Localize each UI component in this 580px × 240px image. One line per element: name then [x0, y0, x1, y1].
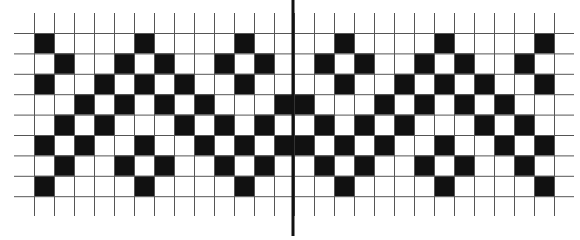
filled-cell — [414, 155, 434, 175]
filled-cell — [114, 94, 134, 114]
filled-cell — [154, 155, 174, 175]
filled-cell — [354, 155, 374, 175]
filled-cell — [34, 33, 54, 53]
filled-cell — [494, 135, 514, 155]
filled-cell — [94, 74, 114, 94]
filled-cell — [514, 155, 534, 175]
filled-cell — [194, 94, 214, 114]
filled-cell — [34, 135, 54, 155]
filled-cell — [374, 94, 394, 114]
filled-cell — [334, 176, 354, 196]
filled-cell — [174, 115, 194, 135]
filled-cell — [434, 176, 454, 196]
filled-cell — [214, 115, 234, 135]
filled-cell — [334, 74, 354, 94]
filled-cell — [94, 115, 114, 135]
filled-cell — [514, 53, 534, 73]
filled-cell — [294, 135, 314, 155]
filled-cell — [54, 53, 74, 73]
filled-cell — [534, 74, 554, 94]
filled-cell — [234, 135, 254, 155]
filled-cell — [434, 33, 454, 53]
filled-cell — [74, 135, 94, 155]
filled-cell — [454, 155, 474, 175]
filled-cell — [374, 135, 394, 155]
filled-cell — [394, 115, 414, 135]
filled-cell — [354, 53, 374, 73]
filled-cell — [254, 53, 274, 73]
filled-cell — [354, 115, 374, 135]
pattern-chart — [0, 0, 580, 240]
filled-cell — [34, 176, 54, 196]
filled-cell — [134, 74, 154, 94]
center-divider — [292, 0, 295, 236]
filled-cell — [234, 33, 254, 53]
filled-cell — [194, 135, 214, 155]
filled-cell — [394, 74, 414, 94]
filled-cell — [154, 53, 174, 73]
filled-cell — [434, 135, 454, 155]
filled-cell — [474, 74, 494, 94]
filled-cell — [534, 135, 554, 155]
filled-cell — [134, 135, 154, 155]
filled-cell — [314, 115, 334, 135]
filled-cell — [174, 74, 194, 94]
filled-cell — [214, 155, 234, 175]
filled-cell — [154, 94, 174, 114]
divider-line — [292, 0, 295, 236]
filled-cell — [54, 155, 74, 175]
filled-cell — [434, 74, 454, 94]
filled-cell — [474, 115, 494, 135]
filled-cell — [334, 33, 354, 53]
filled-cell — [454, 94, 474, 114]
filled-cell — [454, 53, 474, 73]
filled-cell — [494, 94, 514, 114]
filled-cell — [34, 74, 54, 94]
filled-cell — [514, 115, 534, 135]
filled-cell — [414, 94, 434, 114]
filled-cell — [274, 94, 294, 114]
filled-cell — [54, 115, 74, 135]
filled-cell — [314, 155, 334, 175]
filled-cell — [134, 176, 154, 196]
filled-cell — [294, 94, 314, 114]
filled-cell — [134, 33, 154, 53]
filled-cell — [334, 135, 354, 155]
filled-cell — [314, 53, 334, 73]
filled-cell — [254, 155, 274, 175]
filled-cell — [274, 135, 294, 155]
filled-cell — [74, 94, 94, 114]
filled-cell — [234, 176, 254, 196]
filled-cell — [414, 53, 434, 73]
filled-cell — [214, 53, 234, 73]
filled-cell — [254, 115, 274, 135]
filled-cell — [534, 176, 554, 196]
filled-cell — [234, 74, 254, 94]
filled-cell — [114, 155, 134, 175]
filled-cell — [534, 33, 554, 53]
filled-cell — [114, 53, 134, 73]
